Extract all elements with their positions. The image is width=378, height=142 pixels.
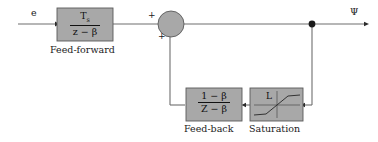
block-diagram: e Ψ + + Ts z − β Feed-forward 1 − β Z − … [0,0,378,142]
feed-forward-numerator-subscript: s [87,16,90,24]
sum-sign-bottom: + [158,32,166,41]
feed-forward-denominator: z − β [57,27,113,37]
arrow-tip-icon-output [364,22,369,26]
feed-back-caption: Feed-back [184,124,233,134]
saturation-block[interactable] [250,88,303,121]
output-signal-label: Ψ [350,7,358,17]
feed-forward-transfer-function: Ts z − β [57,11,113,37]
sum-sign-top: + [148,11,156,20]
saturation-caption: Saturation [249,124,300,134]
feed-back-transfer-function: 1 − β Z − β [186,91,242,114]
input-signal-label: e [31,8,37,18]
feed-back-denominator: Z − β [186,104,242,114]
feed-forward-numerator: Ts [57,11,113,24]
junction-dot-icon [309,21,316,28]
feed-forward-caption: Feed-forward [50,45,115,55]
feed-back-numerator: 1 − β [186,91,242,101]
saturation-limit-label: L [266,91,272,101]
